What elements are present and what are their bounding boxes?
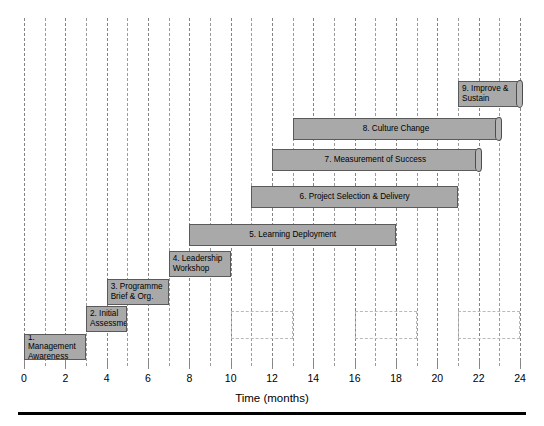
x-tick-2 bbox=[65, 360, 66, 369]
task-bar-label-4: 4. Leadership Workshop bbox=[170, 254, 230, 273]
x-tick-label-24: 24 bbox=[514, 372, 526, 384]
x-tick-10 bbox=[231, 360, 232, 369]
task-bar-label-3: 3. Programme Brief & Org. bbox=[108, 282, 168, 301]
placeholder-box-3 bbox=[458, 311, 520, 339]
gridline-month-0 bbox=[24, 18, 25, 366]
x-tick-label-10: 10 bbox=[225, 372, 237, 384]
x-tick-18 bbox=[396, 360, 397, 369]
placeholder-box-2 bbox=[355, 311, 417, 339]
gridline-month-8 bbox=[189, 18, 190, 366]
x-tick-8 bbox=[189, 360, 190, 369]
task-bar-label-5: 5. Learning Deployment bbox=[190, 230, 395, 240]
task-bar-9[interactable]: 9. Improve & Sustain bbox=[458, 81, 520, 107]
x-tick-label-14: 14 bbox=[307, 372, 319, 384]
gridline-month-1 bbox=[45, 18, 46, 366]
x-tick-16 bbox=[355, 360, 356, 369]
x-axis-title: Time (months) bbox=[0, 392, 544, 404]
x-tick-label-8: 8 bbox=[186, 372, 192, 384]
bottom-rule bbox=[18, 412, 526, 415]
x-tick-24 bbox=[520, 360, 521, 369]
task-bar-8[interactable]: 8. Culture Change bbox=[293, 118, 500, 140]
task-bar-label-8: 8. Culture Change bbox=[294, 124, 499, 134]
task-bar-label-2: 2. Initial Assessment bbox=[87, 309, 126, 328]
task-bar-label-1: 1. Management Awareness bbox=[25, 334, 85, 360]
x-tick-4 bbox=[107, 360, 108, 369]
x-tick-22 bbox=[479, 360, 480, 369]
gridline-month-7 bbox=[169, 18, 170, 366]
placeholder-box-1 bbox=[231, 311, 293, 339]
task-bar-1[interactable]: 1. Management Awareness bbox=[24, 334, 86, 360]
gridline-month-24 bbox=[520, 18, 521, 366]
x-tick-label-16: 16 bbox=[349, 372, 361, 384]
task-bar-label-9: 9. Improve & Sustain bbox=[459, 84, 519, 103]
gridline-month-5 bbox=[127, 18, 128, 366]
task-bar-6[interactable]: 6. Project Selection & Delivery bbox=[251, 186, 458, 208]
gridline-month-2 bbox=[65, 18, 66, 366]
task-bar-2[interactable]: 2. Initial Assessment bbox=[86, 306, 127, 332]
task-bar-5[interactable]: 5. Learning Deployment bbox=[189, 224, 396, 246]
x-tick-label-0: 0 bbox=[21, 372, 27, 384]
x-tick-label-18: 18 bbox=[390, 372, 402, 384]
x-tick-20 bbox=[437, 360, 438, 369]
task-bar-end-curl-8 bbox=[495, 117, 502, 141]
task-bar-label-6: 6. Project Selection & Delivery bbox=[252, 192, 457, 202]
task-bar-4[interactable]: 4. Leadership Workshop bbox=[169, 251, 231, 277]
task-bar-end-curl-7 bbox=[475, 148, 482, 172]
gridline-month-9 bbox=[210, 18, 211, 366]
x-tick-label-12: 12 bbox=[266, 372, 278, 384]
gantt-chart: 1. Management Awareness2. Initial Assess… bbox=[0, 0, 544, 426]
x-tick-0 bbox=[24, 360, 25, 369]
x-tick-label-22: 22 bbox=[473, 372, 485, 384]
gridline-month-6 bbox=[148, 18, 149, 366]
task-bar-end-curl-9 bbox=[516, 80, 523, 108]
x-tick-14 bbox=[313, 360, 314, 369]
plot-area: 1. Management Awareness2. Initial Assess… bbox=[0, 0, 544, 370]
x-tick-12 bbox=[272, 360, 273, 369]
x-tick-label-20: 20 bbox=[431, 372, 443, 384]
task-bar-label-7: 7. Measurement of Success bbox=[273, 155, 478, 165]
task-bar-7[interactable]: 7. Measurement of Success bbox=[272, 149, 479, 171]
x-tick-label-4: 4 bbox=[104, 372, 110, 384]
x-tick-label-2: 2 bbox=[62, 372, 68, 384]
x-tick-label-6: 6 bbox=[145, 372, 151, 384]
task-bar-3[interactable]: 3. Programme Brief & Org. bbox=[107, 279, 169, 305]
x-tick-6 bbox=[148, 360, 149, 369]
